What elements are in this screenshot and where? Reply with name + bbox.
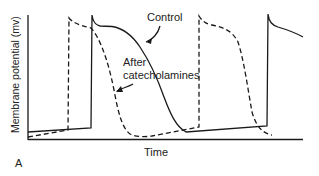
after-label: After [123, 56, 147, 68]
action-potential-figure: Control After catecholamines Time Membra… [0, 0, 319, 176]
catecholamines-label: catecholamines [123, 69, 200, 81]
panel-label: A [15, 157, 23, 169]
catecholamines-arrow [116, 84, 133, 92]
control-arrow [146, 26, 160, 44]
x-axis-label: Time [144, 146, 168, 158]
control-label: Control [147, 11, 182, 23]
y-axis-label: Membrane potential (mv) [9, 16, 21, 133]
